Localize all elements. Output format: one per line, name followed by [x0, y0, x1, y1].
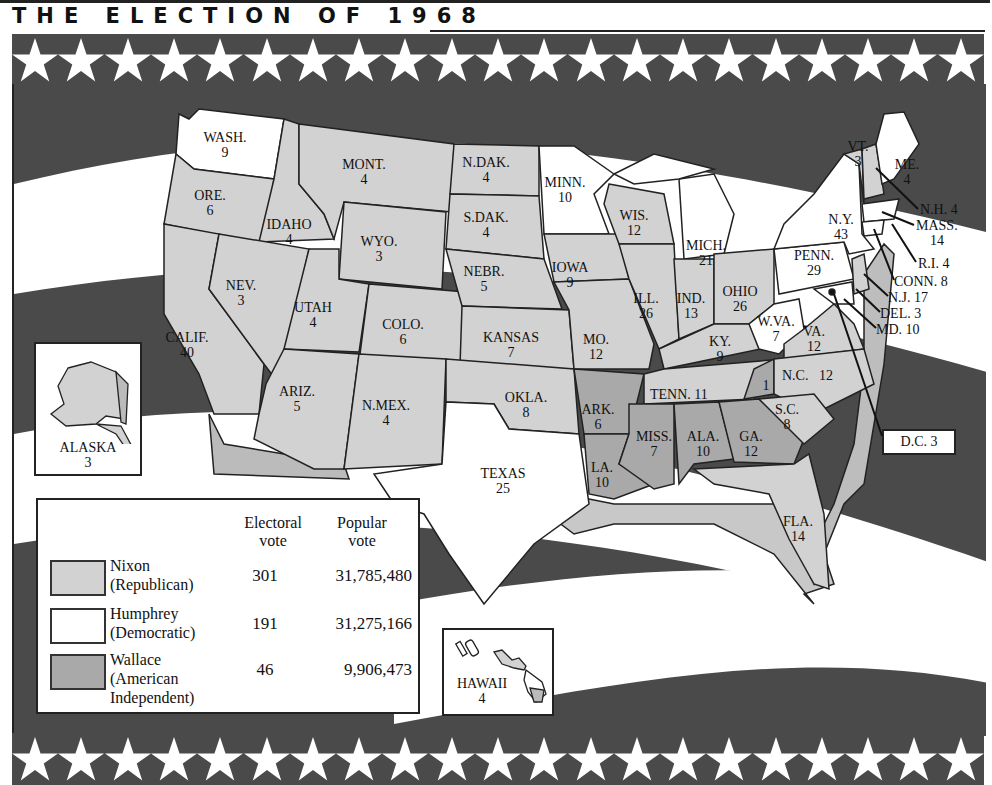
star-icon — [799, 37, 845, 83]
star-icon — [521, 37, 567, 83]
star-icon — [429, 736, 475, 782]
star-icon — [938, 736, 984, 782]
candidate-name: Nixon(Republican) — [110, 556, 194, 594]
star-band-bottom — [12, 733, 984, 785]
star-icon — [753, 37, 799, 83]
star-icon — [151, 37, 197, 83]
page-title: THE ELECTION OF 1968 — [12, 4, 486, 28]
star-band-top — [12, 34, 984, 86]
star-icon — [660, 736, 706, 782]
electoral-vote: 301 — [240, 566, 290, 586]
star-icon — [105, 736, 151, 782]
star-icon — [568, 37, 614, 83]
star-icon — [660, 37, 706, 83]
swatch-nixon — [50, 560, 106, 596]
star-icon — [429, 37, 475, 83]
star-icon — [382, 736, 428, 782]
alaska-inset: ALASKA3 — [34, 342, 142, 476]
star-icon — [706, 37, 752, 83]
star-icon — [244, 37, 290, 83]
electoral-vote: 191 — [240, 614, 290, 634]
candidate-name: Humphrey(Democratic) — [110, 604, 195, 642]
star-icon — [799, 736, 845, 782]
star-icon — [938, 37, 984, 83]
alaska-shape — [36, 344, 140, 444]
star-icon — [105, 37, 151, 83]
star-icon — [58, 736, 104, 782]
swatch-wallace — [50, 654, 106, 690]
star-icon — [58, 37, 104, 83]
legend-row-nixon: Nixon(Republican) 301 31,785,480 — [50, 556, 410, 606]
star-icon — [845, 736, 891, 782]
star-icon — [336, 37, 382, 83]
label-alaska: ALASKA3 — [60, 440, 117, 470]
star-icon — [12, 37, 58, 83]
legend-row-humphrey: Humphrey(Democratic) 191 31,275,166 — [50, 604, 410, 654]
star-icon — [290, 37, 336, 83]
popular-vote: 31,275,166 — [312, 614, 412, 634]
star-icon — [753, 736, 799, 782]
popular-vote: 31,785,480 — [312, 566, 412, 586]
hawaii-inset: HAWAII4 — [442, 628, 554, 716]
legend-header-popular: Popularvote — [324, 514, 400, 550]
title-underline — [430, 30, 985, 32]
star-icon — [12, 736, 58, 782]
star-icon — [382, 37, 428, 83]
swatch-humphrey — [50, 608, 106, 644]
star-icon — [706, 736, 752, 782]
star-icon — [475, 37, 521, 83]
star-icon — [568, 736, 614, 782]
star-icon — [336, 736, 382, 782]
star-icon — [197, 37, 243, 83]
star-icon — [614, 736, 660, 782]
candidate-name: Wallace(AmericanIndependent) — [110, 650, 194, 707]
legend: Electoralvote Popularvote Nixon(Republic… — [36, 498, 420, 714]
star-icon — [151, 736, 197, 782]
label-hawaii: HAWAII4 — [457, 676, 507, 706]
popular-vote: 9,906,473 — [312, 660, 412, 680]
star-icon — [891, 37, 937, 83]
title-rule — [0, 0, 990, 3]
star-icon — [475, 736, 521, 782]
star-icon — [614, 37, 660, 83]
map-frame: WASH.9 ORE.6 CALIF.40 IDAHO4 NEV.3 MONT.… — [12, 84, 986, 736]
electoral-vote: 46 — [240, 660, 290, 680]
star-icon — [891, 736, 937, 782]
star-icon — [197, 736, 243, 782]
legend-row-wallace: Wallace(AmericanIndependent) 46 9,906,47… — [50, 650, 410, 700]
star-icon — [290, 736, 336, 782]
star-icon — [845, 37, 891, 83]
star-icon — [244, 736, 290, 782]
legend-header-electoral: Electoralvote — [228, 514, 318, 550]
star-icon — [521, 736, 567, 782]
